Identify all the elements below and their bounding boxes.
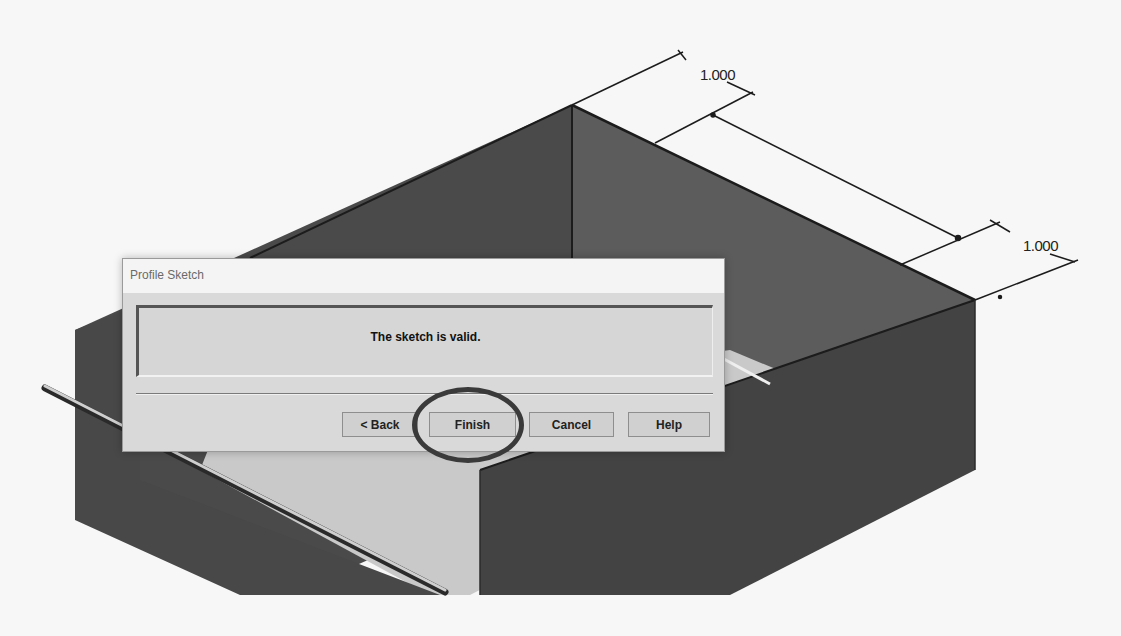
dimension-label-right[interactable]: 1.000 [1023,237,1058,254]
status-message: The sketch is valid. [139,330,712,344]
message-panel: The sketch is valid. [136,305,713,377]
cancel-button[interactable]: Cancel [529,412,614,437]
dialog-title-bar[interactable]: Profile Sketch [123,259,724,293]
profile-sketch-dialog: Profile Sketch The sketch is valid. < Ba… [122,258,725,452]
back-button[interactable]: < Back [342,412,418,437]
finish-button[interactable]: Finish [429,412,516,437]
dialog-separator [136,393,713,395]
help-button[interactable]: Help [628,412,710,437]
dimension-label-top[interactable]: 1.000 [700,66,735,83]
dialog-title: Profile Sketch [130,268,204,282]
